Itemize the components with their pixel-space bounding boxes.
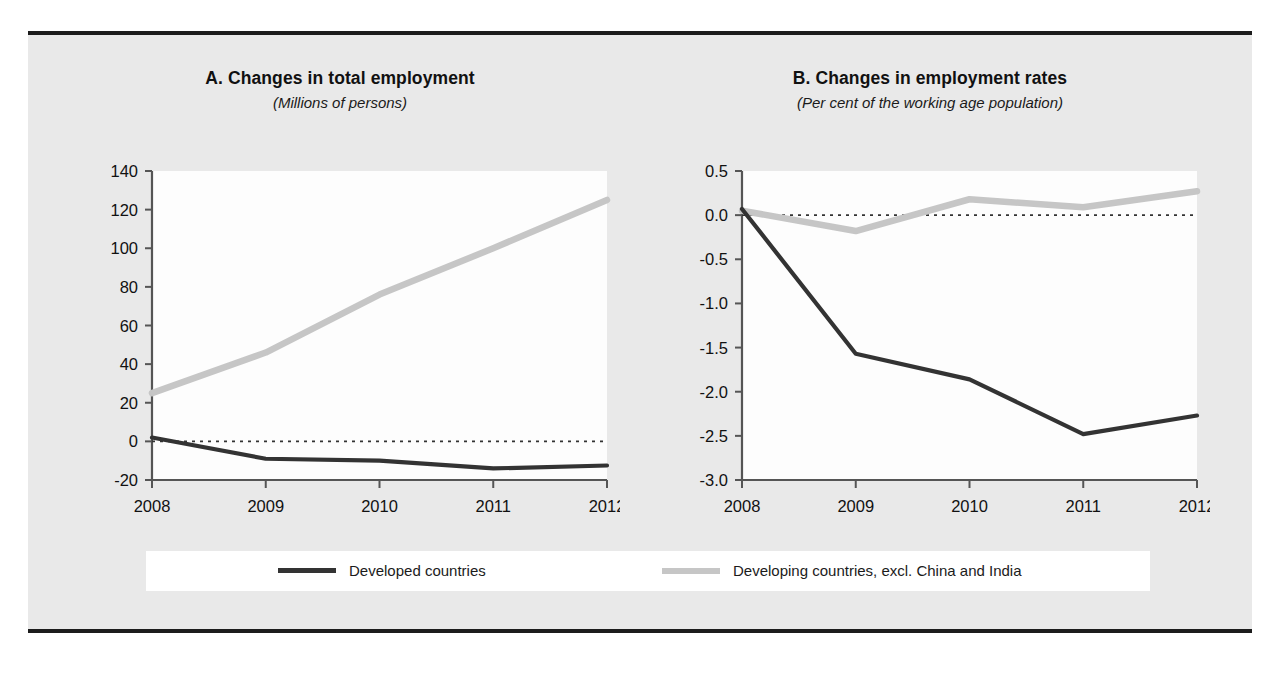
- x-tick-label: 2008: [724, 497, 761, 515]
- y-tick-label: 140: [110, 162, 138, 180]
- y-tick-label: -2.0: [700, 383, 728, 401]
- legend-swatch-developed-icon: [278, 568, 336, 573]
- x-tick-label: 2009: [837, 497, 874, 515]
- bottom-rule: [28, 629, 1252, 633]
- legend-label-developed: Developed countries: [349, 562, 486, 579]
- x-tick-label: 2011: [1066, 497, 1101, 515]
- panel-b: B. Changes in employment rates (Per cent…: [650, 33, 1210, 533]
- legend-item-developing: Developing countries, excl. China and In…: [662, 562, 1022, 579]
- panel-a-title: A. Changes in total employment: [60, 68, 620, 89]
- panel-a-svg: -200204060801001201402008200920102011201…: [60, 143, 620, 533]
- panel-b-svg: -3.0-2.5-2.0-1.5-1.0-0.50.00.52008200920…: [650, 143, 1210, 533]
- x-tick-label: 2010: [951, 497, 988, 515]
- y-tick-label: 40: [120, 355, 138, 373]
- x-tick-label: 2009: [247, 497, 284, 515]
- panel-a: A. Changes in total employment (Millions…: [60, 33, 620, 533]
- figure-container: A. Changes in total employment (Millions…: [0, 0, 1280, 673]
- y-tick-label: 100: [110, 239, 138, 257]
- y-tick-label: -2.5: [700, 427, 728, 445]
- y-tick-label: -3.0: [700, 471, 728, 489]
- y-tick-label: 0.0: [705, 206, 728, 224]
- panel-b-subtitle: (Per cent of the working age population): [650, 94, 1210, 111]
- y-tick-label: 20: [120, 394, 138, 412]
- y-tick-label: 120: [110, 201, 138, 219]
- x-tick-label: 2012: [1179, 497, 1210, 515]
- legend-swatch-developing-icon: [662, 568, 720, 574]
- legend-item-developed: Developed countries: [278, 562, 486, 579]
- y-tick-label: -20: [114, 471, 138, 489]
- panel-a-subtitle: (Millions of persons): [60, 94, 620, 111]
- x-tick-label: 2011: [476, 497, 511, 515]
- y-tick-label: -1.5: [700, 339, 728, 357]
- panel-b-plot: -3.0-2.5-2.0-1.5-1.0-0.50.00.52008200920…: [650, 143, 1210, 533]
- y-tick-label: 60: [120, 317, 138, 335]
- y-tick-label: 0.5: [705, 162, 728, 180]
- panel-b-title: B. Changes in employment rates: [650, 68, 1210, 89]
- y-tick-label: 0: [129, 432, 138, 450]
- plot-background: [152, 171, 607, 480]
- y-tick-label: 80: [120, 278, 138, 296]
- x-tick-label: 2010: [361, 497, 398, 515]
- y-tick-label: -0.5: [700, 250, 728, 268]
- legend-label-developing: Developing countries, excl. China and In…: [733, 562, 1022, 579]
- x-tick-label: 2012: [589, 497, 620, 515]
- y-tick-label: -1.0: [700, 294, 728, 312]
- panel-a-plot: -200204060801001201402008200920102011201…: [60, 143, 620, 533]
- x-tick-label: 2008: [134, 497, 171, 515]
- plot-background: [742, 171, 1197, 480]
